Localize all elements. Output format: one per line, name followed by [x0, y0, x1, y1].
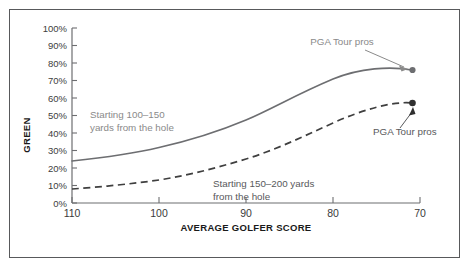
y-tick-label-90: 90%: [48, 40, 68, 51]
y-tick-label-80: 80%: [48, 58, 68, 69]
annotation-pga-bottom-arrowhead: [409, 107, 416, 116]
endpoint-marker-solid: [409, 67, 415, 73]
x-tick-label-70: 70: [414, 207, 426, 219]
y-axis-ticks: [72, 28, 77, 203]
x-tick-label-90: 90: [240, 207, 252, 219]
y-tick-label-40: 40%: [48, 128, 68, 139]
series-label-150-200-line1: Starting 150–200 yards: [213, 178, 314, 189]
y-tick-label-30: 30%: [48, 145, 68, 156]
annotation-pga-top-arrow-line: [365, 50, 404, 67]
x-tick-label-110: 110: [64, 207, 81, 219]
y-tick-label-50: 50%: [48, 110, 68, 121]
series-label-100-150-line1: Starting 100–150: [90, 109, 165, 120]
annotation-pga-top-label: PGA Tour pros: [310, 36, 374, 47]
series-label-100-150-line2: yards from the hole: [90, 122, 174, 133]
x-tick-label-100: 100: [150, 207, 168, 219]
y-axis-title: GREEN: [21, 117, 32, 152]
chart-figure: 100% 90% 80% 70% 60% 50% 40% 30% 20% 10%…: [0, 0, 471, 268]
y-tick-label-100: 100%: [43, 23, 68, 34]
x-tick-label-80: 80: [327, 207, 339, 219]
series-label-150-200-line2: from the hole: [213, 191, 271, 202]
annotation-pga-bottom-label: PGA Tour pros: [373, 126, 437, 137]
y-tick-label-10: 10%: [48, 180, 68, 191]
y-tick-label-70: 70%: [48, 75, 68, 86]
x-axis-title: AVERAGE GOLFER SCORE: [181, 222, 312, 233]
y-tick-label-20: 20%: [48, 163, 68, 174]
y-tick-label-60: 60%: [48, 93, 68, 104]
chart-canvas: 100% 90% 80% 70% 60% 50% 40% 30% 20% 10%…: [0, 0, 471, 268]
endpoint-marker-dashed: [409, 100, 416, 107]
